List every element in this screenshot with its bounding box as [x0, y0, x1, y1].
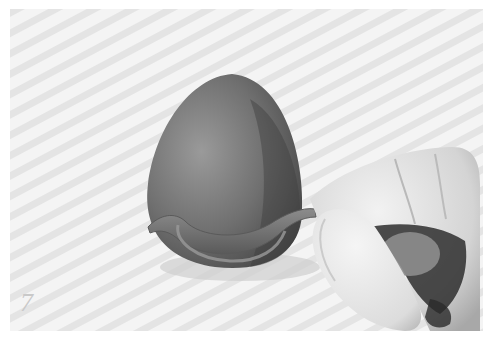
photo-illustration: [10, 9, 483, 331]
craft-photo: [10, 9, 483, 331]
step-number: 7: [20, 290, 33, 316]
page: 7: [0, 0, 497, 344]
